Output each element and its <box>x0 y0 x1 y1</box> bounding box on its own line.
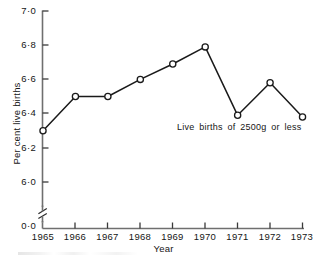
x-tick-label-1966: 1966 <box>64 232 86 242</box>
data-point-1973 <box>299 114 305 120</box>
y-axis-break-icon <box>38 206 47 223</box>
y-tick-label-0-0: 0·0 <box>2 221 36 231</box>
y-tick-label-7-0: 7·0 <box>2 6 36 16</box>
x-tick-label-1973: 1973 <box>291 232 313 242</box>
data-point-1970 <box>202 44 208 50</box>
x-tick-label-1971: 1971 <box>226 232 248 242</box>
x-tick-label-1967: 1967 <box>96 232 118 242</box>
x-tick-label-1968: 1968 <box>129 232 151 242</box>
data-point-1965 <box>40 128 46 134</box>
x-axis-title: Year <box>0 243 327 254</box>
data-point-1968 <box>137 76 143 82</box>
x-tick-label-1969: 1969 <box>161 232 183 242</box>
x-tick-label-1970: 1970 <box>194 232 216 242</box>
data-point-markers <box>40 44 306 134</box>
data-point-1967 <box>105 93 111 99</box>
y-axis-title: Per cent live births <box>11 64 22 184</box>
x-tick-marks <box>75 223 303 229</box>
series-annotation-label: Live births of 2500g or less <box>177 122 302 132</box>
data-series-line <box>43 47 303 131</box>
y-tick-marks <box>43 11 49 182</box>
chart-figure: 7·0 6·8 6·6 6·4 6·2 6·0 0·0 1965 1966 19… <box>0 0 327 258</box>
y-tick-label-6-8: 6·8 <box>2 40 36 50</box>
data-point-1971 <box>235 112 241 118</box>
x-tick-label-1972: 1972 <box>259 232 281 242</box>
data-point-1969 <box>170 61 176 67</box>
data-point-1966 <box>72 93 78 99</box>
data-point-1972 <box>267 80 273 86</box>
x-tick-label-1965: 1965 <box>32 232 54 242</box>
